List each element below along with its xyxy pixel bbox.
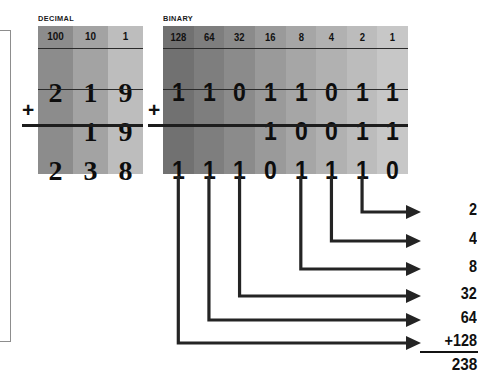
place-value-sum-entry: +128 xyxy=(445,332,477,350)
sum-total-value: 238 xyxy=(451,355,477,374)
sum-total-rule xyxy=(420,351,478,353)
place-value-sum-entry: 32 xyxy=(461,285,477,303)
bit-trace-arrowhead xyxy=(406,289,421,303)
bit-trace-line xyxy=(331,176,407,241)
bit-trace-line xyxy=(240,176,407,296)
bit-trace-arrowhead xyxy=(406,205,421,219)
bit-trace-arrowhead xyxy=(406,313,421,327)
bit-trace-arrowhead xyxy=(406,262,421,276)
place-value-sum-entry: 4 xyxy=(469,230,477,248)
place-value-sum-entry: 64 xyxy=(461,309,477,327)
place-value-sum-entry: 2 xyxy=(469,201,477,219)
bit-trace-line xyxy=(178,176,407,343)
bit-trace-arrowhead xyxy=(406,336,421,350)
bit-trace-arrowhead xyxy=(406,234,421,248)
place-value-sum-entry: 8 xyxy=(469,258,477,276)
bit-trace-line xyxy=(362,176,407,212)
bit-trace-line xyxy=(301,176,407,269)
